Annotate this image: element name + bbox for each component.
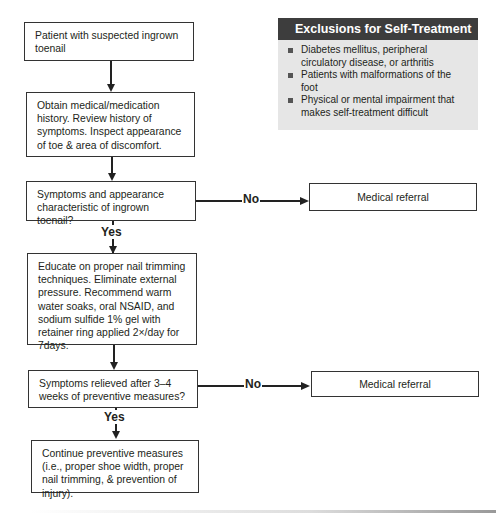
- exclusion-item: Physical or mental impairment that makes…: [288, 94, 470, 119]
- referral2-text: Medical referral: [359, 379, 431, 390]
- educate-box: Educate on proper nail trimming techniqu…: [27, 253, 197, 345]
- educate-text: Educate on proper nail trimming techniqu…: [38, 261, 185, 351]
- exclusions-title: Exclusions for Self-Treatment: [278, 18, 478, 40]
- connector: [111, 157, 113, 174]
- decision1-box: Symptoms and appearance characteristic o…: [26, 181, 196, 221]
- arrow-down-icon: [110, 362, 118, 370]
- decision1-no-label: No: [242, 192, 260, 206]
- connector: [110, 61, 112, 85]
- decision2-no-label: No: [244, 377, 262, 391]
- exclusion-item: Patients with malformations of the foot: [288, 69, 470, 94]
- arrow-down-icon: [108, 173, 116, 181]
- referral2-box: Medical referral: [311, 371, 479, 397]
- arrow-right-icon: [301, 382, 310, 390]
- exclusion-item: Diabetes mellitus, peripheral circulator…: [288, 44, 470, 69]
- start-box: Patient with suspected ingrown toenail: [24, 22, 194, 61]
- decision1-text: Symptoms and appearance characteristic o…: [37, 189, 164, 226]
- decision2-text: Symptoms relieved after 3–4 weeks of pre…: [39, 378, 185, 402]
- decision1-yes-label: Yes: [100, 225, 123, 239]
- history-text: Obtain medical/medication history. Revie…: [37, 100, 181, 151]
- arrow-right-icon: [300, 197, 309, 205]
- arrow-down-icon: [112, 431, 120, 439]
- connector: [113, 345, 115, 363]
- continue-box: Continue preventive measures (i.e., prop…: [31, 440, 199, 493]
- referral1-text: Medical referral: [357, 192, 429, 203]
- decision2-yes-label: Yes: [103, 410, 126, 424]
- start-text: Patient with suspected ingrown toenail: [35, 30, 178, 54]
- decision2-box: Symptoms relieved after 3–4 weeks of pre…: [28, 370, 198, 408]
- referral1-box: Medical referral: [309, 183, 477, 211]
- exclusions-list: Diabetes mellitus, peripheral circulator…: [278, 40, 478, 130]
- continue-text: Continue preventive measures (i.e., prop…: [42, 448, 184, 499]
- history-box: Obtain medical/medication history. Revie…: [26, 92, 195, 157]
- arrow-down-icon: [107, 84, 115, 92]
- exclusions-panel: Exclusions for Self-Treatment Diabetes m…: [278, 18, 478, 130]
